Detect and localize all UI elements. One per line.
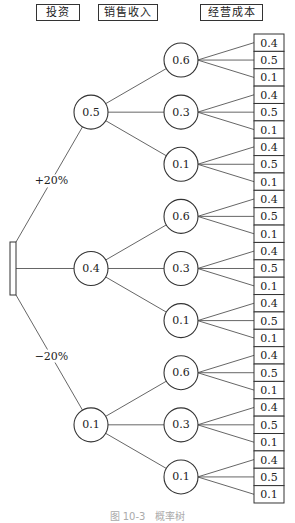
cost-probability: 0.5 — [260, 210, 278, 223]
cost-edge — [198, 303, 254, 320]
cost-edge — [198, 216, 254, 233]
cost-probability: 0.1 — [260, 71, 278, 84]
cost-edge — [198, 199, 254, 216]
sales-probability: 0.3 — [172, 418, 190, 431]
investment-probability: 0.1 — [82, 418, 100, 431]
sales-probability: 0.3 — [172, 106, 190, 119]
cost-probability: 0.4 — [260, 454, 278, 467]
cost-edge — [198, 460, 254, 477]
cost-edge — [198, 355, 254, 372]
cost-probability: 0.4 — [260, 401, 278, 414]
cost-edge — [198, 407, 254, 424]
cost-probability: 0.5 — [260, 158, 278, 171]
cost-probability: 0.1 — [260, 280, 278, 293]
cost-edge — [198, 373, 254, 390]
cost-edge — [198, 268, 254, 285]
cost-probability: 0.1 — [260, 436, 278, 449]
cost-probability: 0.1 — [260, 176, 278, 189]
cost-edge — [198, 43, 254, 60]
cost-probability: 0.4 — [260, 193, 278, 206]
cost-probability: 0.5 — [260, 471, 278, 484]
cost-edge — [198, 425, 254, 442]
cost-edge — [198, 321, 254, 338]
sales-probability: 0.6 — [172, 366, 190, 379]
cost-probability: 0.4 — [260, 297, 278, 310]
branch-label: +20% — [35, 174, 69, 187]
sales-probability: 0.1 — [172, 314, 190, 327]
cost-probability: 0.5 — [260, 54, 278, 67]
cost-probability: 0.4 — [260, 89, 278, 102]
sales-edge — [106, 69, 167, 104]
cost-probability: 0.5 — [260, 315, 278, 328]
sales-edge — [106, 277, 167, 312]
cost-edge — [198, 60, 254, 77]
cost-probability: 0.4 — [260, 245, 278, 258]
cost-edge — [198, 95, 254, 112]
cost-probability: 0.1 — [260, 124, 278, 137]
figure-caption: 图 10-3 概率树 — [0, 508, 295, 523]
cost-probability: 0.5 — [260, 367, 278, 380]
cost-probability: 0.4 — [260, 141, 278, 154]
sales-edge — [106, 225, 167, 260]
cost-probability: 0.4 — [260, 349, 278, 362]
cost-edge — [198, 112, 254, 129]
cost-probability: 0.5 — [260, 262, 278, 275]
cost-probability: 0.1 — [260, 384, 278, 397]
cost-probability: 0.1 — [260, 488, 278, 501]
sales-probability: 0.3 — [172, 262, 190, 275]
branch-label: −20% — [35, 350, 69, 363]
sales-probability: 0.1 — [172, 158, 190, 171]
sales-edge — [106, 121, 167, 156]
cost-probability: 0.5 — [260, 419, 278, 432]
cost-edge — [198, 147, 254, 164]
cost-probability: 0.1 — [260, 228, 278, 241]
cost-edge — [198, 164, 254, 181]
decision-node — [10, 242, 16, 295]
cost-probability: 0.1 — [260, 332, 278, 345]
cost-edge — [198, 477, 254, 494]
sales-edge — [106, 381, 167, 416]
sales-edge — [106, 433, 167, 468]
cost-probability: 0.5 — [260, 106, 278, 119]
investment-probability: 0.5 — [82, 106, 100, 119]
cost-edge — [198, 251, 254, 268]
investment-probability: 0.4 — [82, 262, 100, 275]
sales-probability: 0.1 — [172, 470, 190, 483]
cost-probability: 0.4 — [260, 37, 278, 50]
sales-probability: 0.6 — [172, 210, 190, 223]
sales-probability: 0.6 — [172, 54, 190, 67]
